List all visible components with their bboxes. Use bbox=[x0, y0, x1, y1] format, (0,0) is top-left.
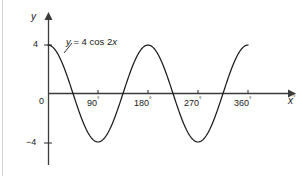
x-tick-label-270-text: 270 bbox=[184, 98, 199, 108]
y-axis-label: y bbox=[31, 12, 36, 22]
x-tick-label-180: 180° bbox=[134, 97, 152, 108]
y-axis-arrowhead bbox=[45, 12, 53, 20]
x-tick-label-90-text: 90 bbox=[87, 98, 97, 108]
x-axis-label-degree: ° bbox=[293, 94, 296, 101]
x-tick-label-270: 270° bbox=[184, 97, 202, 108]
x-tick-label-180-degree: ° bbox=[149, 96, 152, 103]
x-tick-label-90: 90° bbox=[87, 97, 100, 108]
y-tick-label-4: 4 bbox=[33, 40, 38, 49]
equation-middle-text: = 4 cos 2 bbox=[71, 36, 112, 47]
x-tick-label-90-degree: ° bbox=[97, 96, 100, 103]
x-tick-label-360-text: 360 bbox=[234, 98, 249, 108]
equation-x-symbol: x bbox=[112, 36, 117, 47]
x-tick-label-360: 360° bbox=[234, 97, 252, 108]
x-axis-label: x° bbox=[288, 95, 296, 106]
y-tick-label-neg-4: −4 bbox=[26, 138, 36, 147]
x-tick-label-180-text: 180 bbox=[134, 98, 149, 108]
x-tick-label-270-degree: ° bbox=[199, 96, 202, 103]
trigonometric-graph-figure: y x° 4 −4 0 90° 180° 270° 360° y = 4 cos… bbox=[0, 0, 303, 176]
origin-label: 0 bbox=[39, 97, 44, 106]
equation-annotation: y = 4 cos 2x bbox=[66, 37, 117, 47]
plot-canvas bbox=[0, 0, 303, 176]
x-tick-label-360-degree: ° bbox=[249, 96, 252, 103]
